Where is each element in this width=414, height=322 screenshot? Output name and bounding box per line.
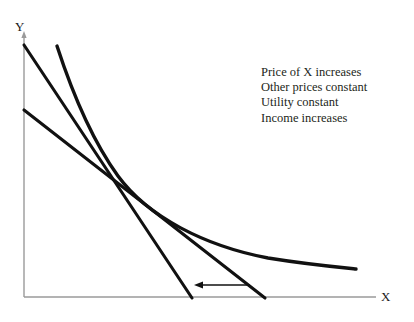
figure-canvas: Y X Price of X increases Other prices co… — [0, 0, 414, 322]
annotation-line-3: Utility constant — [261, 95, 367, 110]
annotation-line-4: Income increases — [261, 111, 367, 126]
annotation-line-2: Other prices constant — [261, 80, 367, 95]
y-axis-label: Y — [15, 20, 24, 33]
x-axis-label: X — [381, 290, 390, 303]
budget-line-steep — [24, 45, 192, 298]
leftward-shift-arrow — [194, 281, 250, 288]
annotation-text-block: Price of X increases Other prices consta… — [261, 65, 367, 126]
annotation-line-1: Price of X increases — [261, 65, 367, 80]
diagram-svg — [0, 0, 414, 322]
